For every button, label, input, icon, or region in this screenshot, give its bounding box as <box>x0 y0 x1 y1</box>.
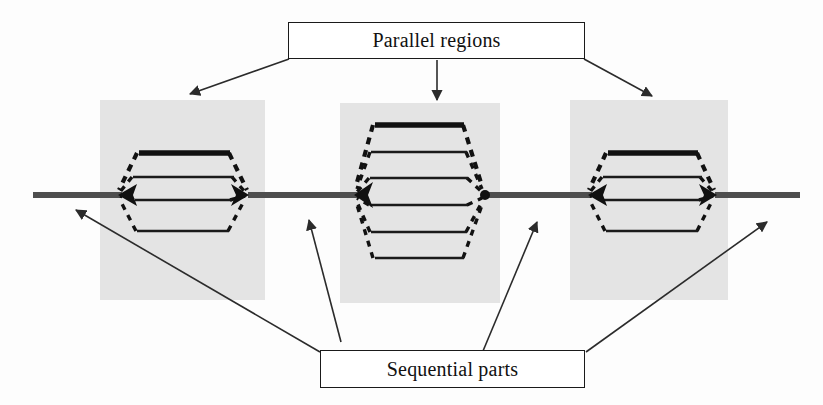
arrow-to-region-3 <box>584 59 652 96</box>
sequential-parts-label: Sequential parts <box>387 358 519 381</box>
r2-join-right <box>480 190 490 200</box>
region-backdrops <box>100 100 728 303</box>
diagram-svg <box>0 0 823 405</box>
arrow-to-region-1 <box>190 59 289 94</box>
sequential-parts-callout: Sequential parts <box>320 350 585 388</box>
parallel-regions-callout: Parallel regions <box>288 22 585 59</box>
annotation-arrows-top <box>190 59 652 100</box>
figure-canvas: Parallel regions Sequential parts <box>0 0 823 405</box>
arrow-to-sequential-2 <box>309 220 341 342</box>
parallel-regions-label: Parallel regions <box>372 29 500 52</box>
